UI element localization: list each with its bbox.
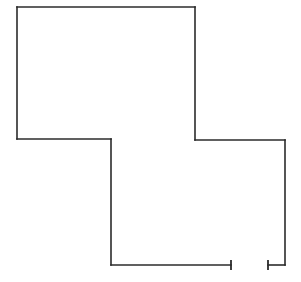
- wall-group: [17, 7, 285, 265]
- floor-plan-canvas: [0, 0, 301, 282]
- floor-plan-drawing: [0, 0, 301, 282]
- opening-jamb-group: [231, 260, 268, 270]
